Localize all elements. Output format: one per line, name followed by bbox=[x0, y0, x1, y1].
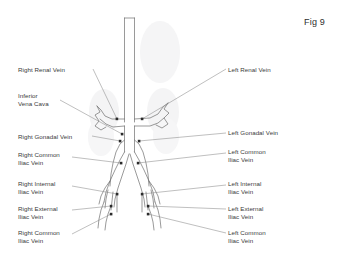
figure-caption: Fig 9 bbox=[304, 17, 325, 27]
label-lciv-lower-line2: Iliac Vein bbox=[228, 237, 253, 244]
marker-left-renal-vein bbox=[141, 118, 144, 121]
marker-left-gonadal-vein bbox=[138, 140, 141, 143]
label-liiv-line2: Iliac Vein bbox=[228, 188, 253, 195]
label-rciv-upper-line1: Right Common bbox=[18, 151, 60, 158]
label-left-common-iliac-vein-upper: Left CommonIliac Vein bbox=[228, 148, 266, 164]
label-left-common-iliac-vein-lower: Left CommonIliac Vein bbox=[228, 229, 266, 245]
marker-right-external-iliac bbox=[110, 205, 113, 208]
left-kidney-upper-shape bbox=[140, 21, 180, 83]
marker-right-internal-iliac bbox=[116, 193, 119, 196]
leader-left-gonadal-vein bbox=[139, 133, 226, 141]
marker-right-common-iliac-lower bbox=[110, 213, 113, 216]
marker-right-renal-vein bbox=[116, 118, 119, 121]
left-gonadal-vein bbox=[135, 140, 150, 186]
label-lciv-lower-line1: Left Common bbox=[228, 229, 266, 236]
leader-left-common-iliac-lower bbox=[148, 214, 226, 233]
label-liiv-line1: Left Internal bbox=[228, 180, 261, 187]
marker-right-gonadal-vein bbox=[119, 140, 122, 143]
right-external-iliac-vein-medial bbox=[105, 206, 111, 230]
leader-endpoint-markers bbox=[110, 118, 150, 216]
label-right-gonadal-vein: Right Gonadal Vein bbox=[18, 133, 72, 141]
right-external-iliac-vein bbox=[98, 202, 104, 228]
right-kidney-shape bbox=[88, 118, 114, 156]
label-leiv-line2: Iliac Vein bbox=[228, 213, 253, 220]
label-left-external-iliac-vein: Left ExternalIliac Vein bbox=[228, 205, 263, 221]
label-rciv-lower-line2: Iliac Vein bbox=[18, 237, 43, 244]
label-reiv-line2: Iliac Vein bbox=[18, 213, 43, 220]
label-left-internal-iliac-vein: Left InternalIliac Vein bbox=[228, 180, 261, 196]
label-riiv-line1: Right Internal bbox=[18, 180, 56, 187]
label-inferior-vena-cava-line1: Inferior bbox=[18, 92, 38, 99]
right-internal-iliac-branch-a bbox=[105, 190, 108, 208]
label-rciv-lower-line1: Right Common bbox=[18, 229, 60, 236]
label-lciv-upper-line1: Left Common bbox=[228, 148, 266, 155]
label-leiv-line1: Left External bbox=[228, 205, 263, 212]
left-external-iliac-vein-medial bbox=[148, 206, 154, 230]
label-inferior-vena-cava-line2: Vena Cava bbox=[18, 100, 49, 107]
label-inferior-vena-cava: InferiorVena Cava bbox=[18, 92, 49, 108]
leader-right-common-iliac-lower bbox=[72, 214, 111, 234]
leader-left-external-iliac bbox=[148, 206, 226, 209]
label-reiv-line1: Right External bbox=[18, 205, 58, 212]
marker-left-external-iliac bbox=[147, 205, 150, 208]
label-right-renal-vein: Right Renal Vein bbox=[18, 66, 65, 74]
leader-right-internal-iliac bbox=[72, 186, 117, 194]
marker-left-common-iliac-lower bbox=[147, 213, 150, 216]
marker-inferior-vena-cava bbox=[121, 133, 124, 136]
left-external-iliac-vein bbox=[155, 202, 161, 228]
label-left-gonadal-vein: Left Gonadal Vein bbox=[228, 129, 278, 137]
label-left-renal-vein: Left Renal Vein bbox=[228, 66, 271, 74]
kidney-silhouettes bbox=[88, 21, 180, 156]
label-right-common-iliac-vein-upper: Right CommonIliac Vein bbox=[18, 151, 60, 167]
label-riiv-line2: Iliac Vein bbox=[18, 188, 43, 195]
label-rciv-upper-line2: Iliac Vein bbox=[18, 159, 43, 166]
label-right-external-iliac-vein: Right ExternalIliac Vein bbox=[18, 205, 58, 221]
marker-left-common-iliac-upper bbox=[137, 162, 140, 165]
label-right-internal-iliac-vein: Right InternalIliac Vein bbox=[18, 180, 56, 196]
label-lciv-upper-line2: Iliac Vein bbox=[228, 156, 253, 163]
label-right-common-iliac-vein-lower: Right CommonIliac Vein bbox=[18, 229, 60, 245]
marker-right-common-iliac-upper bbox=[120, 162, 123, 165]
leader-left-common-iliac-upper bbox=[138, 153, 226, 163]
marker-left-internal-iliac bbox=[141, 193, 144, 196]
